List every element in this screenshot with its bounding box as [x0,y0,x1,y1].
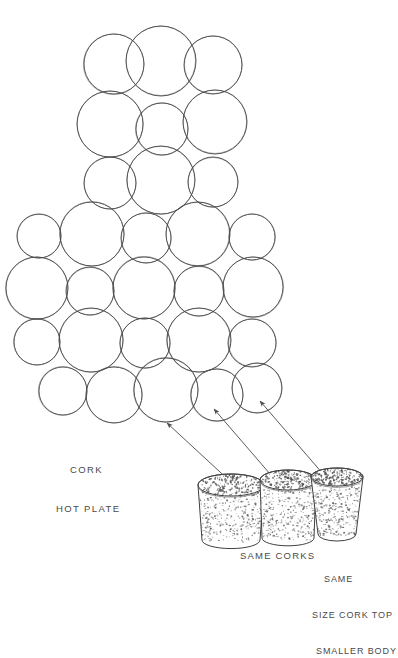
label-cork-hot-plate-line1: CORK [56,463,121,476]
cork-specimens [198,468,363,549]
cork-circle [232,363,282,413]
label-same-size-line1: SAME [318,573,397,585]
cork-circle [183,90,247,154]
cork-circle [60,202,124,266]
cork-circle [121,213,171,263]
label-same-corks: SAME CORKS [240,549,315,562]
label-same-size-line3: SMALLER BODY [316,645,397,657]
cork-circle [228,319,276,367]
cork-left [198,474,264,549]
cork-middle [260,469,317,545]
cork-circle [167,308,231,372]
cork-circle [188,157,238,207]
cork-circle [38,367,87,416]
label-cork-hot-plate-line2: HOT PLATE [56,502,121,515]
cork-circle [14,319,60,365]
label-cork-hot-plate: CORK HOT PLATE [56,437,121,528]
cork-circle [59,308,123,372]
cork-circle [120,318,170,368]
cork-circle [83,34,144,95]
cork-circle [223,257,284,318]
cork-right [311,468,363,541]
cork-circle [77,91,143,157]
cork-circle [184,36,242,94]
cork-circle [17,214,61,258]
label-same-size-cork-top: SAME SIZE CORK TOP SMALLER BODY [318,549,397,658]
cork-circle [133,358,198,423]
label-same-size-line2: SIZE CORK TOP [312,609,397,621]
cork-circle [126,26,196,96]
cork-circle [113,256,176,319]
cork-circle [229,214,275,260]
cork-circle-array [6,26,284,423]
cork-circle [127,146,195,214]
cork-circle [166,202,230,266]
cork-circle [6,257,68,319]
cork-circle [135,103,188,155]
